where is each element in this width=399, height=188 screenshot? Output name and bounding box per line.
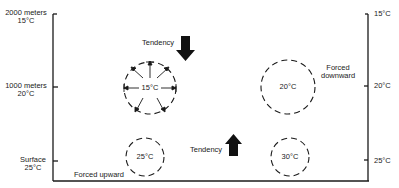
tendency-up-label: Tendency (190, 146, 222, 154)
left-axis-label-surface: Surface 25°C (16, 156, 50, 172)
right-axis-label-25c: 25°C (374, 157, 391, 165)
parcel-25c-label: 25°C (133, 153, 157, 161)
label-temp: 25°C (16, 164, 50, 172)
diagram-canvas (0, 0, 399, 188)
left-axis-label-2000m: 2000 meters 15°C (3, 9, 49, 25)
right-axis-label-15c: 15°C (374, 10, 391, 18)
forced-downward-line2: downward (321, 72, 355, 80)
right-axis-label-20c: 20°C (374, 82, 391, 90)
parcel-20c-label: 20°C (276, 83, 300, 91)
label-temp: 15°C (3, 17, 49, 25)
parcel-30c-label: 30°C (278, 153, 302, 161)
tendency-down-label: Tendency (142, 39, 174, 47)
forced-upward-label: Forced upward (74, 171, 124, 179)
arrow-up-icon (225, 134, 242, 156)
label-temp: 20°C (3, 90, 49, 98)
right-axis (364, 14, 368, 181)
left-axis (53, 14, 58, 181)
forced-downward-label: Forced downward (321, 64, 355, 80)
left-axis-label-1000m: 1000 meters 20°C (3, 82, 49, 98)
arrow-down-icon (176, 36, 195, 61)
parcel-15c-label: 15°C (138, 84, 162, 92)
